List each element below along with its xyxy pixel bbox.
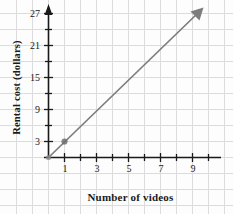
x-tick-label-7: 7 <box>154 163 168 174</box>
x-axis-title: Number of videos <box>0 191 233 203</box>
y-tick-label-3: 3 <box>22 136 40 147</box>
y-tick-label-21: 21 <box>22 40 40 51</box>
x-tick-label-9: 9 <box>186 163 200 174</box>
x-tick-label-1: 1 <box>58 163 72 174</box>
data-point-1-3 <box>61 138 67 144</box>
x-tick-label-3: 3 <box>90 163 104 174</box>
data-point-origin <box>46 155 51 160</box>
y-tick-label-15: 15 <box>22 72 40 83</box>
x-tick-label-5: 5 <box>122 163 136 174</box>
y-axis-title: Rental cost (dollars) <box>11 23 22 153</box>
y-tick-label-27: 27 <box>22 8 40 19</box>
y-tick-label-9: 9 <box>22 104 40 115</box>
rental-cost-line-graph: 3 9 15 21 27 1 3 5 7 9 Number of videos … <box>0 0 233 214</box>
